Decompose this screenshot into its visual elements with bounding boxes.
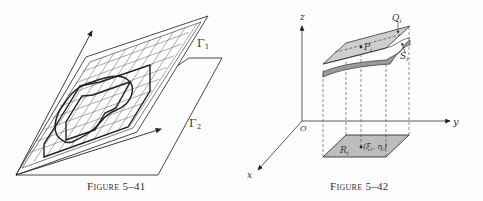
label-origin: O [300, 124, 307, 133]
label-y: y [452, 116, 459, 127]
figure-5-42-drawing: z y x O Qi Pi Si Ri (ξi, ηi) [0, 0, 483, 201]
label-Si: Si [400, 51, 408, 62]
point-xi-eta [360, 146, 363, 149]
label-Qi: Qi [392, 13, 401, 24]
caption-figure-5-41: Figure 5–41 [87, 180, 146, 192]
figure-page: Γ1 Γ2 [0, 0, 483, 201]
point-Pi [360, 46, 363, 49]
label-point-xi-eta: (ξi, ηi) [363, 142, 387, 152]
caption-figure-5-42: Figure 5–42 [330, 180, 389, 192]
label-z: z [299, 12, 305, 22]
label-x: x [247, 170, 252, 180]
x-axis [258, 121, 302, 170]
